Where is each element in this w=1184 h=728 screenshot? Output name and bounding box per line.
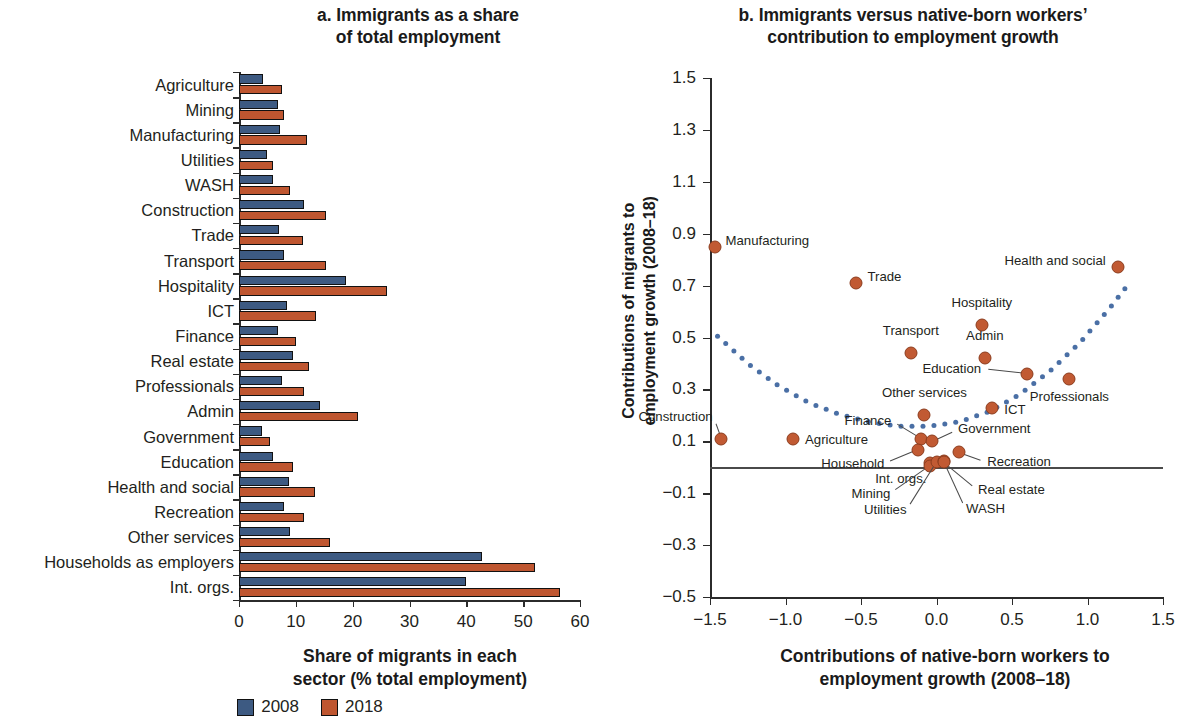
panel-b-x-tick	[937, 597, 938, 605]
panel-a-category-label: Hospitality	[158, 278, 234, 295]
panel-b-x-tick	[786, 597, 787, 605]
panel-a-x-tick	[353, 600, 354, 607]
bar-2018-real-estate	[239, 362, 309, 371]
scatter-point-label: ICT	[1004, 403, 1025, 416]
panel-a-category-label: Transport	[164, 253, 234, 270]
panel-b-y-tick	[703, 286, 710, 287]
panel-a-category-label: Int. orgs.	[170, 579, 234, 596]
panel-b-x-axis-title-line1: Contributions of native-born workers to	[720, 645, 1170, 668]
panel-b-y-tick-label: −0.1	[662, 483, 696, 503]
panel-a-x-tick	[580, 600, 581, 607]
panel-b-y-tick	[703, 338, 710, 339]
legend-item-2018[interactable]: 2018	[321, 697, 383, 717]
panel-a-category-label: Manufacturing	[129, 127, 234, 144]
panel-a-category-label: Trade	[192, 227, 235, 244]
panel-a-y-tick	[233, 248, 239, 249]
scatter-point-manufacturing	[708, 240, 721, 253]
panel-a-y-tick	[233, 575, 239, 576]
scatter-point-label: Household	[821, 458, 884, 471]
panel-a-y-tick	[233, 147, 239, 148]
bar-2008-government	[239, 426, 262, 435]
legend-item-2008[interactable]: 2008	[237, 697, 299, 717]
bar-2008-hospitality	[239, 276, 346, 285]
scatter-point-label: Agriculture	[805, 433, 868, 446]
scatter-point-label: Mining	[852, 487, 891, 500]
panel-b-x-tick	[710, 597, 711, 605]
panel-b-y-tick	[703, 78, 710, 79]
panel-a-x-axis-title-line1: Share of migrants in each	[230, 645, 590, 668]
bar-2018-agriculture	[239, 85, 282, 94]
panel-a-x-tick	[239, 600, 240, 607]
bar-2018-admin	[239, 412, 358, 421]
scatter-point-label: Transport	[883, 324, 939, 337]
bar-2018-hospitality	[239, 286, 387, 295]
panel-b-x-tick-label: −1.5	[693, 610, 727, 630]
panel-a-y-tick	[233, 223, 239, 224]
panel-a-category-label: Professionals	[135, 378, 234, 395]
scatter-point-label: Health and social	[1005, 255, 1106, 268]
bar-2018-recreation	[239, 513, 304, 522]
legend-label: 2008	[261, 697, 299, 717]
bar-2008-professionals	[239, 376, 282, 385]
panel-b-x-axis-title: Contributions of native-born workers to …	[720, 645, 1170, 691]
scatter-point-label: Admin	[966, 330, 1003, 343]
panel-a-y-tick	[233, 499, 239, 500]
panel-a-category-label: Construction	[141, 202, 234, 219]
bar-2018-government	[239, 437, 270, 446]
panel-a-y-tick	[233, 298, 239, 299]
panel-b-y-axis-title: Contributions of migrants to employment …	[619, 146, 661, 476]
scatter-point-label: Hospitality	[951, 296, 1012, 309]
panel-b-y-axis-title-line1: Contributions of migrants to	[619, 146, 640, 476]
panel-a-category-label: Health and social	[107, 479, 234, 496]
scatter-point-professionals	[1063, 373, 1076, 386]
panel-b-y-tick-label: −0.5	[662, 587, 696, 607]
scatter-point-label: Real estate	[978, 483, 1045, 496]
bar-2008-education	[239, 452, 273, 461]
panel-b-y-tick-label: 0.7	[672, 276, 696, 296]
panel-a-x-tick	[466, 600, 467, 607]
bar-2008-construction	[239, 200, 304, 209]
bar-2018-int-orgs-	[239, 588, 560, 597]
panel-a-category-label: Recreation	[154, 504, 234, 521]
panel-b-y-tick	[703, 441, 710, 442]
panel-a-x-tick	[410, 600, 411, 607]
bar-2018-trade	[239, 236, 303, 245]
legend: 20082018	[0, 697, 620, 717]
panel-a-category-label: Education	[161, 454, 234, 471]
bar-2008-admin	[239, 401, 320, 410]
scatter-point-label: Utilities	[864, 503, 907, 516]
panel-a-category-label: WASH	[185, 177, 234, 194]
panel-b-y-tick	[703, 389, 710, 390]
panel-a-y-tick	[233, 173, 239, 174]
bar-2008-households-as-employers	[239, 552, 482, 561]
panel-a-category-label: Government	[143, 429, 234, 446]
figure-root: a. Immigrants as a share of total employ…	[0, 0, 1184, 728]
panel-b-x-tick-label: 1.0	[1076, 610, 1100, 630]
bar-2008-transport	[239, 250, 284, 259]
panel-a-x-tick-label: 20	[343, 612, 362, 632]
panel-a-x-tick-label: 50	[514, 612, 533, 632]
bar-2018-manufacturing	[239, 135, 307, 144]
scatter-point-education	[1021, 367, 1034, 380]
scatter-point-transport	[904, 347, 917, 360]
panel-a-category-label: ICT	[207, 303, 234, 320]
scatter-point-label: WASH	[966, 502, 1005, 515]
panel-a-x-tick-label: 10	[286, 612, 305, 632]
scatter-point-label: Government	[958, 423, 1031, 436]
panel-b-plot-area: 1.51.31.10.90.70.50.30.1−0.1−0.3−0.5−1.5…	[710, 78, 1163, 597]
panel-b-x-tick	[1088, 597, 1089, 605]
scatter-point-label: Other services	[882, 387, 967, 400]
panel-b-y-tick-label: 0.1	[672, 431, 696, 451]
panel-b-scatter-chart: 1.51.31.10.90.70.50.30.1−0.1−0.3−0.5−1.5…	[610, 0, 1184, 728]
panel-a-y-tick	[233, 525, 239, 526]
scatter-point-other-services	[918, 409, 931, 422]
bar-2008-finance	[239, 326, 278, 335]
bar-2018-utilities	[239, 161, 273, 170]
panel-a-y-tick	[233, 424, 239, 425]
panel-a-x-axis-title-line2: sector (% total employment)	[230, 668, 590, 691]
panel-b-x-axis-title-line2: employment growth (2008–18)	[720, 668, 1170, 691]
legend-label: 2018	[345, 697, 383, 717]
panel-a-category-label: Other services	[128, 529, 234, 546]
scatter-point-agriculture	[787, 432, 800, 445]
panel-a-y-tick	[233, 474, 239, 475]
